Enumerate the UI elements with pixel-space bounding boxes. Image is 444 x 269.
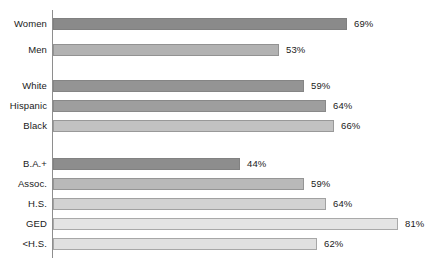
bar-value-label: 64%	[333, 197, 352, 210]
bar-track	[53, 198, 326, 210]
bar-track	[53, 158, 240, 170]
bar-value-label: 64%	[333, 99, 352, 112]
bar-row: Assoc.59%	[0, 178, 444, 190]
bar-chart: Women69%Men53%White59%Hispanic64%Black66…	[0, 0, 444, 269]
bar-category-label: Women	[0, 17, 47, 30]
bar-row: H.S.64%	[0, 198, 444, 210]
bar-row: Men53%	[0, 44, 444, 56]
bar-category-label: Hispanic	[0, 99, 47, 112]
bar-fill	[53, 158, 240, 170]
bar-track	[53, 178, 304, 190]
bar-row: GED81%	[0, 218, 444, 230]
bar-category-label: Men	[0, 43, 47, 56]
bar-track	[53, 100, 326, 112]
bar-row: B.A.+44%	[0, 158, 444, 170]
bar-row: Women69%	[0, 18, 444, 30]
bar-value-label: 59%	[311, 79, 330, 92]
bar-category-label: GED	[0, 217, 47, 230]
bar-track	[53, 44, 279, 56]
bar-value-label: 69%	[354, 17, 373, 30]
bar-track	[53, 238, 317, 250]
bar-fill	[53, 80, 304, 92]
bar-category-label: Assoc.	[0, 177, 47, 190]
bar-row: White59%	[0, 80, 444, 92]
bar-value-label: 44%	[247, 157, 266, 170]
bar-track	[53, 80, 304, 92]
bar-value-label: 59%	[311, 177, 330, 190]
bar-value-label: 53%	[286, 43, 305, 56]
bar-track	[53, 18, 347, 30]
bar-value-label: 66%	[341, 119, 360, 132]
bar-fill	[53, 198, 326, 210]
bar-category-label: <H.S.	[0, 237, 47, 250]
bar-row: <H.S.62%	[0, 238, 444, 250]
bar-category-label: B.A.+	[0, 157, 47, 170]
bar-fill	[53, 44, 279, 56]
bar-value-label: 62%	[324, 237, 343, 250]
bar-row: Black66%	[0, 120, 444, 132]
bar-fill	[53, 218, 398, 230]
bar-row: Hispanic64%	[0, 100, 444, 112]
bar-track	[53, 120, 334, 132]
bar-track	[53, 218, 398, 230]
bar-fill	[53, 100, 326, 112]
bar-fill	[53, 18, 347, 30]
bar-category-label: White	[0, 79, 47, 92]
bar-fill	[53, 120, 334, 132]
bar-value-label: 81%	[405, 217, 424, 230]
bar-category-label: Black	[0, 119, 47, 132]
bar-fill	[53, 238, 317, 250]
bar-category-label: H.S.	[0, 197, 47, 210]
bar-fill	[53, 178, 304, 190]
